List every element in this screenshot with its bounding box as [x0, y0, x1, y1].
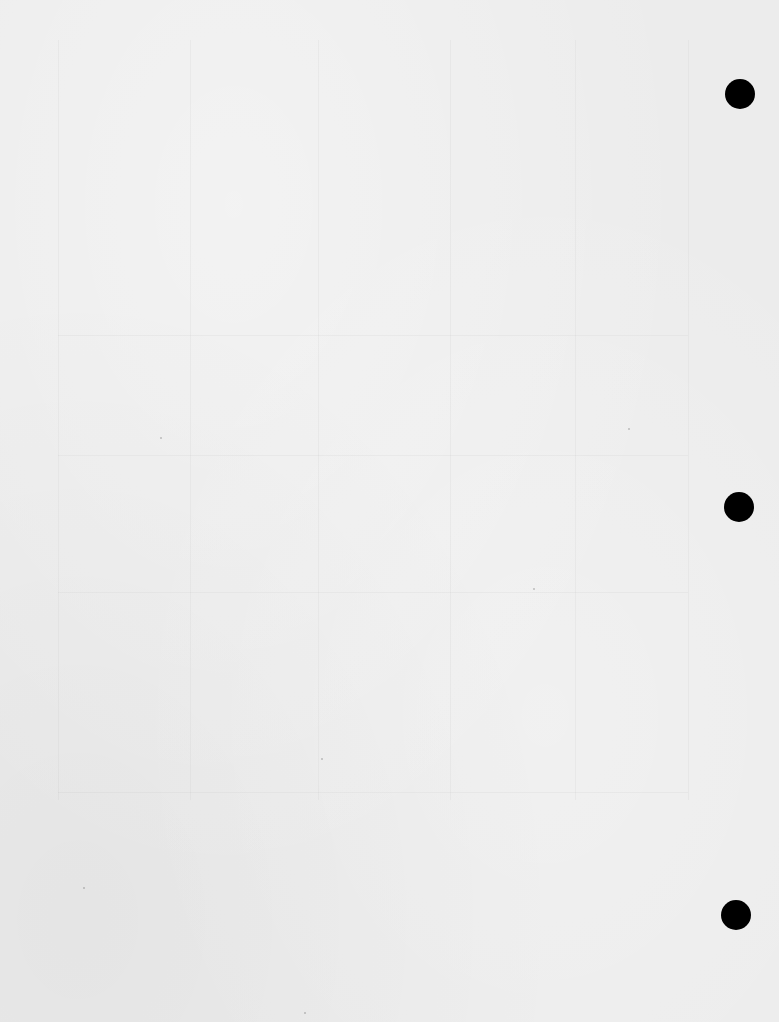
bleed-through-line [58, 335, 688, 336]
paper-speck [628, 428, 630, 430]
paper-speck [533, 588, 535, 590]
paper-speck [83, 887, 85, 889]
bleed-through-line [58, 40, 59, 800]
bleed-through-line [688, 40, 689, 800]
bleed-through-line [58, 455, 688, 456]
bleed-through-line [450, 40, 451, 800]
punch-hole-top [725, 79, 755, 109]
punch-hole-middle [724, 492, 754, 522]
punch-hole-bottom [721, 900, 751, 930]
paper-speck [160, 437, 162, 439]
paper-speck [321, 758, 323, 760]
paper-speck [304, 1012, 306, 1014]
bleed-through-line [58, 792, 688, 793]
bleed-through-line [190, 40, 191, 800]
bleed-through-line [58, 592, 688, 593]
bleed-through-line [318, 40, 319, 800]
scanned-blank-page [0, 0, 779, 1022]
bleed-through-line [575, 40, 576, 800]
